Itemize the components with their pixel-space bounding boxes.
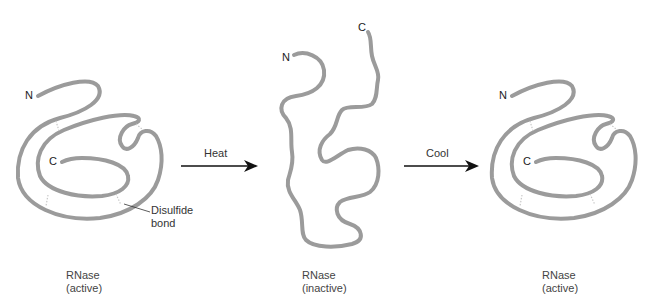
cool-arrow (404, 160, 479, 172)
heat-label: Heat (204, 147, 227, 159)
state-label-right: RNase (active) (542, 269, 578, 295)
n-terminus-label-right: N (499, 89, 507, 101)
cool-label: Cool (426, 147, 449, 159)
unfolded-protein-middle (281, 32, 378, 247)
n-terminus-label-left: N (25, 89, 33, 101)
c-terminus-label-middle: C (358, 21, 366, 33)
diagram-canvas (0, 0, 656, 306)
folded-protein-right (492, 81, 636, 218)
c-terminus-label-left: C (49, 155, 57, 167)
state-label-middle-status: (inactive) (302, 282, 347, 295)
state-label-left-name: RNase (66, 269, 102, 282)
state-label-right-name: RNase (542, 269, 578, 282)
c-terminus-label-right: C (523, 155, 531, 167)
heat-arrow (181, 160, 258, 172)
state-label-right-status: (active) (542, 282, 578, 295)
state-label-left-status: (active) (66, 282, 102, 295)
rnase-denaturation-diagram: N C N C N C Heat Cool Disulfide bond RNa… (0, 0, 656, 306)
state-label-middle-name: RNase (302, 269, 347, 282)
state-label-middle: RNase (inactive) (302, 269, 347, 295)
callout-line-2: bond (151, 217, 193, 230)
callout-line-1: Disulfide (151, 204, 193, 217)
folded-protein-left (18, 81, 162, 218)
disulfide-bond-callout: Disulfide bond (151, 204, 193, 230)
state-label-left: RNase (active) (66, 269, 102, 295)
n-terminus-label-middle: N (282, 51, 290, 63)
cropped-caption-strip (0, 298, 656, 306)
